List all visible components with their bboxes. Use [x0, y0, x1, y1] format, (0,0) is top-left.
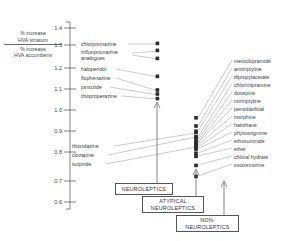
leader-lines-non-neuroleptics — [198, 60, 232, 176]
data-point — [156, 42, 160, 46]
data-points-neuroleptics — [156, 42, 160, 101]
data-point — [194, 116, 198, 120]
callout-neuroleptics-line1: NEUROLEPTICS — [122, 186, 166, 192]
data-point — [194, 124, 198, 128]
callout-box-non-neuroleptics[interactable]: NON- NEUROLEPTICS — [176, 215, 239, 232]
data-point — [194, 129, 198, 133]
data-point — [194, 164, 198, 168]
data-point — [194, 155, 198, 159]
figure-canvas: % increase HVA striatum % increase HVA a… — [0, 0, 296, 241]
data-point — [156, 75, 160, 79]
leader-lines-atypical — [106, 133, 196, 164]
data-point — [156, 92, 160, 96]
data-point — [156, 88, 160, 92]
callout-box-atypical-neuroleptics[interactable]: ATYPICAL NEUROLEPTICS — [142, 196, 204, 213]
data-point — [194, 148, 198, 152]
data-point — [156, 49, 160, 53]
callout-box-neuroleptics[interactable]: NEUROLEPTICS — [115, 183, 173, 195]
data-point — [156, 57, 160, 61]
leader-lines-neuroleptics — [110, 44, 158, 99]
data-point — [156, 97, 160, 101]
callout-atypical-line2: NEUROLEPTICS — [151, 205, 195, 211]
callout-non-line2: NEUROLEPTICS — [185, 224, 229, 230]
